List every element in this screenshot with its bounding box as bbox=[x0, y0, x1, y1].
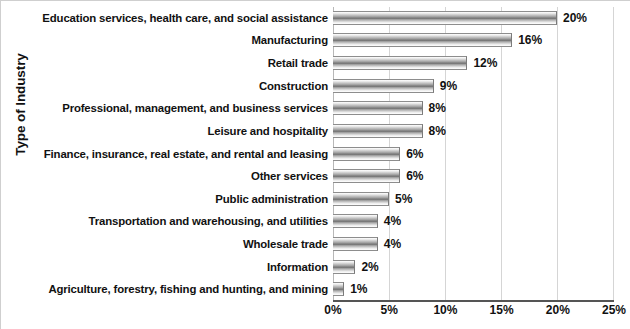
category-label: Information bbox=[8, 261, 328, 273]
x-tick-label: 0% bbox=[324, 303, 341, 317]
bar bbox=[333, 56, 467, 70]
x-axis-tick-labels: 0%5%10%15%20%25% bbox=[333, 303, 614, 323]
bar-value-label: 5% bbox=[395, 192, 412, 206]
bar bbox=[333, 11, 557, 25]
bar bbox=[333, 124, 423, 138]
bar bbox=[333, 260, 355, 274]
bar bbox=[333, 79, 434, 93]
x-axis-line bbox=[333, 300, 614, 302]
bar bbox=[333, 282, 344, 296]
bar-rows: Education services, health care, and soc… bbox=[333, 7, 613, 300]
bar-value-label: 8% bbox=[429, 124, 446, 138]
category-label: Retail trade bbox=[8, 57, 328, 69]
bar bbox=[333, 237, 378, 251]
x-tick-label: 15% bbox=[490, 303, 514, 317]
bar-value-label: 1% bbox=[350, 282, 367, 296]
bar-value-label: 4% bbox=[384, 214, 401, 228]
bar-value-label: 8% bbox=[429, 101, 446, 115]
bar-value-label: 20% bbox=[563, 11, 587, 25]
bar-value-label: 12% bbox=[473, 56, 497, 70]
bar-row: Professional, management, and business s… bbox=[333, 98, 613, 120]
bar-value-label: 16% bbox=[518, 33, 542, 47]
bar-row: Public administration5% bbox=[333, 188, 613, 210]
bar bbox=[333, 33, 512, 47]
bar-row: Leisure and hospitality8% bbox=[333, 120, 613, 142]
category-label: Education services, health care, and soc… bbox=[8, 12, 328, 24]
bar-value-label: 6% bbox=[406, 169, 423, 183]
bar-value-label: 2% bbox=[361, 260, 378, 274]
bar bbox=[333, 169, 400, 183]
x-tick-label: 20% bbox=[546, 303, 570, 317]
category-label: Finance, insurance, real estate, and ren… bbox=[8, 148, 328, 160]
bar-row: Education services, health care, and soc… bbox=[333, 7, 613, 29]
bar bbox=[333, 101, 423, 115]
bar-value-label: 6% bbox=[406, 147, 423, 161]
category-label: Professional, management, and business s… bbox=[8, 102, 328, 114]
bar-value-label: 9% bbox=[440, 79, 457, 93]
category-label: Public administration bbox=[8, 193, 328, 205]
gridline bbox=[613, 7, 614, 300]
bar-row: Construction9% bbox=[333, 75, 613, 97]
category-label: Transportation and warehousing, and util… bbox=[8, 215, 328, 227]
bar-row: Finance, insurance, real estate, and ren… bbox=[333, 143, 613, 165]
bar-chart: Type of Industry Education services, hea… bbox=[0, 0, 630, 329]
plot-area: Education services, health care, and soc… bbox=[333, 7, 613, 300]
bar bbox=[333, 214, 378, 228]
category-label: Leisure and hospitality bbox=[8, 125, 328, 137]
bar-row: Agriculture, forestry, fishing and hunti… bbox=[333, 279, 613, 301]
bar bbox=[333, 147, 400, 161]
category-label: Manufacturing bbox=[8, 34, 328, 46]
x-tick-label: 10% bbox=[433, 303, 457, 317]
bar-row: Manufacturing16% bbox=[333, 30, 613, 52]
category-label: Agriculture, forestry, fishing and hunti… bbox=[8, 283, 328, 295]
category-label: Construction bbox=[8, 80, 328, 92]
bar bbox=[333, 192, 389, 206]
bar-row: Transportation and warehousing, and util… bbox=[333, 211, 613, 233]
bar-row: Retail trade12% bbox=[333, 52, 613, 74]
category-label: Wholesale trade bbox=[8, 238, 328, 250]
category-label: Other services bbox=[8, 170, 328, 182]
bar-row: Other services6% bbox=[333, 165, 613, 187]
bar-row: Wholesale trade4% bbox=[333, 233, 613, 255]
bar-row: Information2% bbox=[333, 256, 613, 278]
bar-value-label: 4% bbox=[384, 237, 401, 251]
x-tick-label: 25% bbox=[602, 303, 626, 317]
x-tick-label: 5% bbox=[381, 303, 398, 317]
